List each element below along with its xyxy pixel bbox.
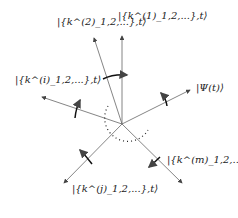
label-k2: |{k^(2)_1,2,...},t⟩	[57, 16, 146, 27]
rotation-arc-4	[80, 150, 92, 164]
state-vector-diagram: |{k^(1)_1,2,...},t⟩ |{k^(2)_1,2,...},t⟩ …	[0, 0, 238, 218]
label-kj: |{k^(j)_1,2,...},t⟩	[72, 183, 158, 194]
axis-ki	[42, 97, 122, 124]
axis-kj	[64, 124, 122, 183]
dotted-arc	[105, 106, 148, 141]
label-km: |{k^(m)_1,2,...},t⟩	[167, 154, 238, 165]
rotation-arc-5	[149, 157, 160, 167]
axis-psi	[122, 90, 190, 124]
label-psi: |Ψ(t)⟩	[196, 82, 224, 93]
label-ki: |{k^(i)_1,2,...},t⟩	[15, 74, 101, 85]
